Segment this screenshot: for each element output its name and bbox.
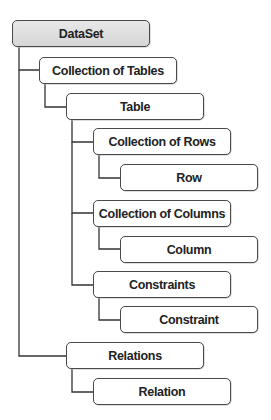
node-row: Row [120, 164, 258, 191]
connector-table-to-collection-of-rows [72, 120, 93, 142]
connector-table-to-constraints [72, 213, 93, 285]
node-dataset: DataSet [12, 20, 150, 47]
connector-collection-of-columns-to-column [99, 227, 120, 249]
node-collection-of-rows: Collection of Rows [93, 128, 231, 155]
node-collection-of-tables: Collection of Tables [39, 57, 177, 84]
node-constraint: Constraint [120, 306, 258, 333]
connector-collection-of-rows-to-row [99, 155, 120, 178]
connector-dataset-to-relations [19, 70, 66, 356]
node-label: Constraints [129, 278, 195, 292]
connector-table-to-collection-of-columns [72, 142, 93, 213]
node-label: DataSet [59, 27, 103, 41]
node-constraints: Constraints [93, 271, 231, 298]
node-label: Row [176, 171, 202, 185]
node-label: Collection of Tables [52, 64, 164, 78]
node-relation: Relation [93, 378, 231, 405]
node-label: Column [167, 243, 212, 257]
connector-constraints-to-constraint [99, 298, 120, 320]
node-column: Column [120, 236, 258, 263]
node-label: Table [120, 100, 150, 114]
dataset-hierarchy-diagram: DataSet Collection of Tables Table Colle… [0, 0, 271, 420]
node-label: Constraint [159, 313, 219, 327]
node-relations: Relations [66, 342, 204, 369]
connector-collection-of-tables-to-table [45, 84, 66, 107]
node-label: Collection of Rows [108, 135, 215, 149]
node-table: Table [66, 93, 204, 120]
connector-dataset-to-collection-of-tables [19, 47, 39, 70]
node-label: Relation [139, 385, 186, 399]
node-label: Collection of Columns [99, 207, 225, 221]
connector-relations-to-relation [72, 369, 93, 392]
node-collection-of-columns: Collection of Columns [93, 200, 231, 227]
node-label: Relations [108, 349, 162, 363]
